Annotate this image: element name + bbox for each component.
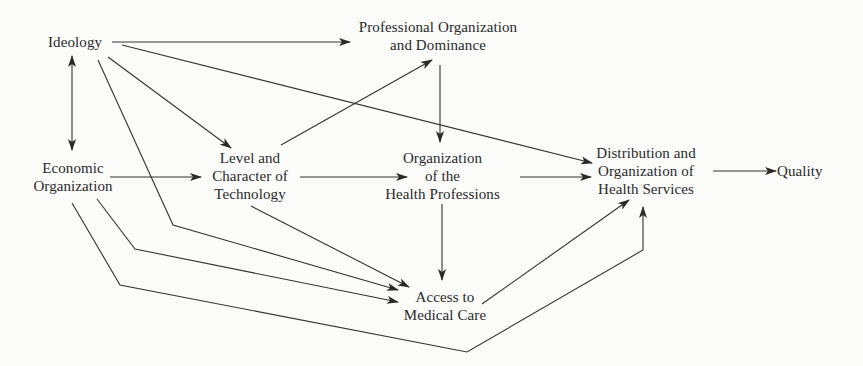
node-label-line: Ideology xyxy=(48,33,102,51)
node-access-medical-care: Access to Medical Care xyxy=(395,288,495,324)
node-label-line: Organization xyxy=(28,177,118,195)
node-label-line: Access to xyxy=(395,288,495,306)
node-label-line: of the xyxy=(375,167,510,185)
node-label-line: Health Services xyxy=(591,180,701,198)
node-professional-organization-dominance: Professional Organization and Dominance xyxy=(348,18,528,54)
node-ideology: Ideology xyxy=(48,33,102,51)
node-organization-health-professions: Organization of the Health Professions xyxy=(375,149,510,203)
node-label-line: Organization xyxy=(375,149,510,167)
node-label-line: Distribution and xyxy=(591,144,701,162)
node-label-line: Character of xyxy=(200,167,300,185)
node-label-line: Quality xyxy=(777,162,823,180)
node-label-line: Health Professions xyxy=(375,185,510,203)
node-label-line: Organization of xyxy=(591,162,701,180)
health-services-causal-diagram: Ideology Economic Organization Level and… xyxy=(0,0,863,366)
edge-economic-to-access xyxy=(97,199,398,302)
node-label-line: Medical Care xyxy=(395,306,495,324)
node-label-line: Professional Organization xyxy=(348,18,528,36)
node-distribution-organization-health-services: Distribution and Organization of Health … xyxy=(591,144,701,198)
node-label-line: Technology xyxy=(200,185,300,203)
node-label-line: Economic xyxy=(28,159,118,177)
node-economic-organization: Economic Organization xyxy=(28,159,118,195)
edge-technology-to-professional-org xyxy=(281,60,432,145)
node-level-character-technology: Level and Character of Technology xyxy=(200,149,300,203)
edge-access-to-distribution xyxy=(482,200,629,304)
edge-technology-to-access xyxy=(251,206,409,287)
edge-ideology-to-distribution xyxy=(122,45,592,163)
edge-ideology-to-technology xyxy=(108,57,231,148)
node-label-line: and Dominance xyxy=(348,36,528,54)
node-quality: Quality xyxy=(777,162,823,180)
edge-economic-to-distribution xyxy=(72,203,643,352)
node-label-line: Level and xyxy=(200,149,300,167)
